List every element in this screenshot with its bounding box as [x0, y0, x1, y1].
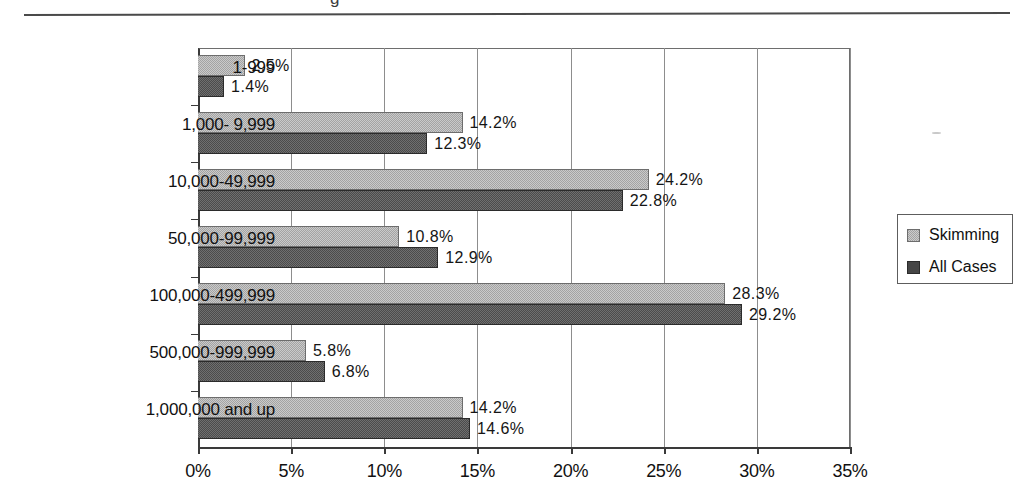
bar-value-label: 6.8% — [332, 363, 370, 381]
category-label: 500,000-999,999 — [149, 343, 275, 363]
y-axis-tick — [191, 219, 199, 220]
category-label: 50,000-99,999 — [168, 229, 275, 249]
gridline — [664, 48, 665, 448]
x-axis-tick — [757, 447, 759, 454]
x-axis-tick — [850, 447, 852, 454]
bar-all-cases — [198, 418, 470, 439]
bar-value-label: 24.2% — [656, 171, 703, 189]
x-axis-tick — [477, 447, 479, 454]
bar-all-cases — [198, 190, 623, 211]
category-label: 1,000,000 and up — [146, 400, 275, 420]
legend-item-all-cases[interactable]: All Cases — [907, 258, 997, 276]
x-axis-tick-label: 20% — [553, 461, 588, 482]
x-axis-tick — [291, 447, 293, 454]
bar-all-cases — [198, 247, 438, 268]
bar-value-label: 14.6% — [477, 420, 524, 438]
x-axis-tick-label: 30% — [739, 461, 774, 482]
bar-all-cases — [198, 304, 742, 325]
bar-value-label: 22.8% — [630, 192, 677, 210]
legend-item-skimming[interactable]: Skimming — [907, 226, 999, 244]
x-axis-tick — [571, 447, 573, 454]
x-axis-tick — [384, 447, 386, 454]
x-axis-tick-label: 35% — [832, 461, 867, 482]
x-axis-tick — [664, 447, 666, 454]
bar-value-label: 14.2% — [470, 399, 517, 417]
gridline — [571, 48, 572, 448]
x-axis-tick-label: 25% — [646, 461, 681, 482]
y-axis-tick — [191, 162, 199, 163]
legend-label-all-cases: All Cases — [929, 258, 997, 276]
y-axis-tick — [191, 391, 199, 392]
category-label: 1-999 — [233, 58, 275, 78]
bar-skimming — [198, 283, 725, 304]
bar-value-label: 14.2% — [470, 114, 517, 132]
y-axis-tick — [191, 277, 199, 278]
x-axis-tick-label: 15% — [460, 461, 495, 482]
bar-value-label: 1.4% — [231, 78, 269, 96]
legend-swatch-skimming-icon — [907, 229, 920, 242]
scan-artifact — [932, 132, 941, 134]
x-axis-tick-label: 5% — [278, 461, 303, 482]
bar-all-cases — [198, 76, 224, 97]
x-axis-tick-label: 0% — [185, 461, 210, 482]
bar-chart: 2.5%1.4%14.2%12.3%24.2%22.8%10.8%12.9%28… — [0, 0, 1033, 504]
bar-value-label: 12.3% — [434, 135, 481, 153]
bar-all-cases — [198, 361, 325, 382]
y-axis-tick — [191, 105, 199, 106]
x-axis-tick-label: 10% — [367, 461, 402, 482]
category-label: 1,000- 9,999 — [182, 115, 275, 135]
x-axis-line — [198, 447, 851, 449]
legend-label-skimming: Skimming — [929, 226, 999, 244]
bar-value-label: 12.9% — [445, 249, 492, 267]
chart-legend: Skimming All Cases — [897, 214, 1013, 284]
y-axis-tick — [191, 334, 199, 335]
bar-value-label: 5.8% — [313, 342, 351, 360]
bar-value-label: 28.3% — [732, 285, 779, 303]
category-label: 10,000-49,999 — [168, 172, 275, 192]
x-axis-tick — [198, 447, 200, 454]
gridline — [757, 48, 758, 448]
legend-swatch-all-cases-icon — [907, 261, 920, 274]
category-label: 100,000-499,999 — [149, 286, 275, 306]
bar-all-cases — [198, 133, 427, 154]
bar-value-label: 29.2% — [749, 306, 796, 324]
gridline — [850, 48, 851, 448]
gridline — [477, 48, 478, 448]
bar-value-label: 10.8% — [406, 228, 453, 246]
